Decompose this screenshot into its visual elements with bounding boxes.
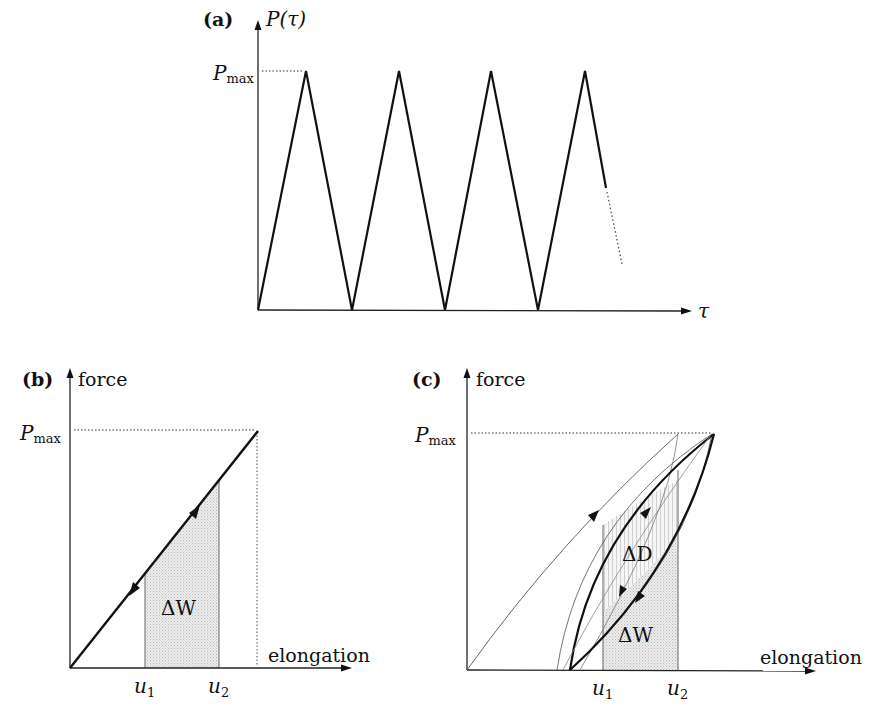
x-axis-arrow-icon	[681, 308, 692, 315]
panel-b: (b) force elongation Pmax u1 u2 ΔW	[19, 368, 370, 700]
unloading-arrow-icon	[129, 582, 140, 596]
y-axis-arrow-icon	[464, 368, 471, 378]
panel-b-tag: (b)	[22, 368, 53, 390]
y-axis-label: P(τ)	[265, 7, 306, 31]
x-axis	[258, 310, 682, 311]
x-axis-label: elongation	[760, 646, 862, 668]
panel-a-tag: (a)	[203, 8, 233, 30]
work-area	[145, 481, 219, 668]
u2-tick-label: u2	[667, 676, 688, 702]
panel-c-tag: (c)	[412, 368, 442, 390]
panel-c: (c) force elongation Pmax u1 u2 ΔD ΔW	[412, 368, 862, 702]
x-axis-arrow-icon	[805, 668, 816, 675]
work-area-label: ΔW	[161, 596, 196, 620]
x-axis-label: elongation	[268, 644, 370, 666]
pmax-label: Pmax	[414, 423, 457, 448]
pmax-label: Pmax	[212, 61, 255, 86]
panel-a: (a) P(τ) τ Pmax	[203, 7, 710, 323]
y-axis-label: force	[78, 368, 127, 390]
x-axis-label: τ	[698, 299, 710, 323]
y-axis-arrow-icon	[67, 368, 74, 378]
u1-tick-label: u1	[134, 674, 155, 700]
work-area-label: ΔW	[618, 623, 653, 647]
load-curve	[258, 71, 606, 310]
x-axis	[467, 670, 806, 671]
u1-tick-label: u1	[592, 676, 613, 702]
u2-tick-label: u2	[208, 674, 229, 700]
figure-canvas: (a) P(τ) τ Pmax (b) force elongation Pma…	[0, 0, 889, 715]
pmax-label: Pmax	[19, 421, 62, 446]
dissipation-area-label: ΔD	[622, 542, 652, 566]
y-axis-arrow-icon	[255, 20, 262, 30]
y-axis-label: force	[476, 368, 525, 390]
load-curve-continuation	[607, 192, 622, 264]
